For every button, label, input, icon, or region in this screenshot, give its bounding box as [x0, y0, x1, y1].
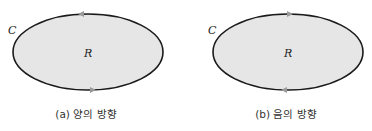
figure-b: C R	[208, 11, 363, 93]
figure-a: C R	[8, 11, 163, 93]
region-label: R	[283, 47, 292, 60]
caption-b: (b) 음의 방향	[255, 106, 317, 121]
curve-label: C	[8, 24, 17, 37]
caption-a: (a) 양의 방향	[55, 106, 116, 121]
region-label: R	[83, 47, 92, 60]
curve-label: C	[208, 24, 217, 37]
